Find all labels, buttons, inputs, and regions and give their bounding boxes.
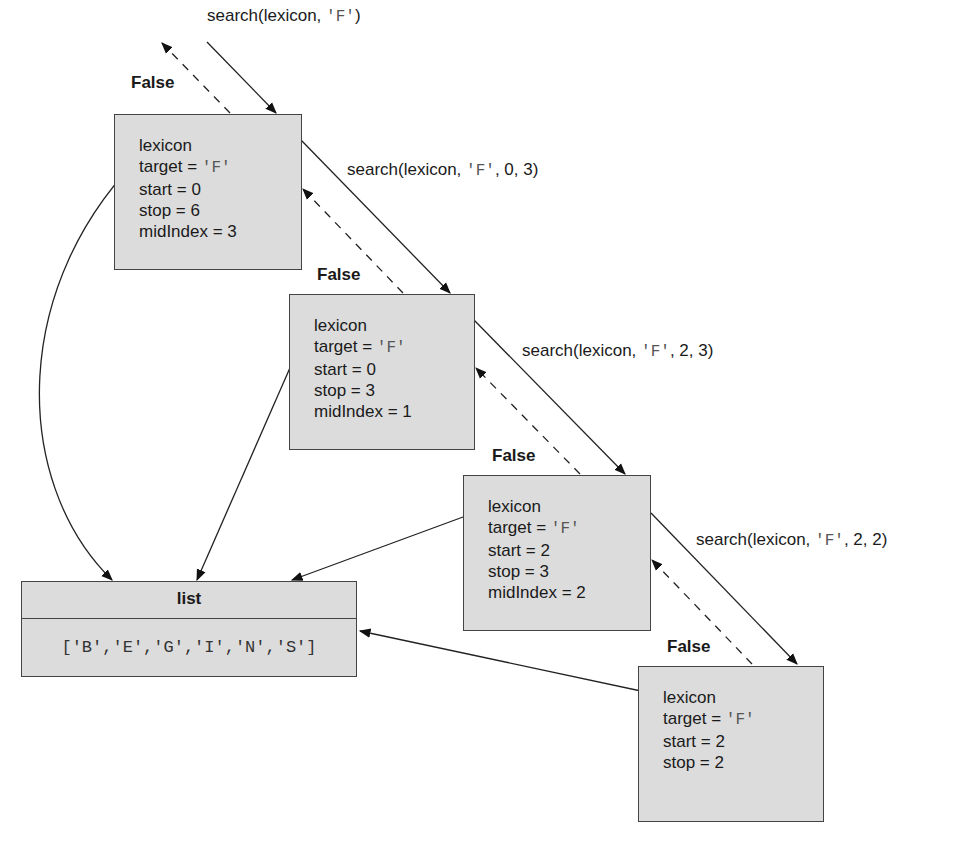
frame-target-key: target = [663,709,726,728]
call-arrow-1 [207,42,276,113]
call-label-4: search(lexicon, 'F', 2, 2) [696,530,887,550]
call-label-arg: 'F' [815,532,844,550]
return-label-2: False [317,265,360,285]
frame-start: start = 0 [139,179,301,200]
frame-stop: stop = 2 [663,752,823,773]
call-label-arg: 'F' [641,343,670,361]
call-label-suffix: , 2, 3) [670,341,713,360]
frame-target: target = 'F' [314,336,474,359]
frame-start: start = 2 [488,540,650,561]
frame-midindex: midIndex = 1 [314,401,474,422]
call-label-suffix: ) [355,6,361,25]
return-label-3: False [492,446,535,466]
return-label-1: False [131,73,174,93]
list-object-value: ['B','E','G','I','N','S'] [22,619,356,677]
frame-lexicon: lexicon [314,315,474,336]
frame-stop: stop = 3 [488,561,650,582]
frame-target: target = 'F' [663,708,823,731]
frame-target-value: 'F' [726,711,755,729]
call-label-arg: 'F' [466,162,495,180]
stack-frame-4: lexicon target = 'F' start = 2 stop = 2 [638,666,824,822]
frame-midindex: midIndex = 3 [139,221,301,242]
stack-frame-2: lexicon target = 'F' start = 0 stop = 3 … [289,294,475,450]
frame-lexicon: lexicon [139,135,301,156]
stack-frame-3: lexicon target = 'F' start = 2 stop = 3 … [463,475,651,631]
frame-target: target = 'F' [488,517,650,540]
frame-target-value: 'F' [202,159,231,177]
list-object-title: list [22,582,356,619]
frame-target: target = 'F' [139,156,301,179]
call-label-suffix: , 2, 2) [844,530,887,549]
call-label-3: search(lexicon, 'F', 2, 3) [522,341,713,361]
call-label-text: search(lexicon, [347,160,466,179]
ref-arrow-frame3 [292,510,482,580]
call-label-text: search(lexicon, [207,6,326,25]
call-label-arg: 'F' [326,8,355,26]
frame-target-value: 'F' [551,520,580,538]
frame-target-key: target = [139,157,202,176]
frame-target-key: target = [314,337,377,356]
frame-target-key: target = [488,518,551,537]
frame-lexicon: lexicon [488,496,650,517]
frame-stop: stop = 3 [314,380,474,401]
frame-start: start = 2 [663,731,823,752]
frame-target-value: 'F' [377,339,406,357]
call-label-suffix: , 0, 3) [495,160,538,179]
list-object: list ['B','E','G','I','N','S'] [21,581,357,677]
stack-frame-1: lexicon target = 'F' start = 0 stop = 6 … [114,114,302,270]
frame-start: start = 0 [314,359,474,380]
return-label-4: False [667,637,710,657]
frame-midindex: midIndex = 2 [488,582,650,603]
call-label-2: search(lexicon, 'F', 0, 3) [347,160,538,180]
ref-arrow-frame4 [360,631,655,694]
call-label-1: search(lexicon, 'F') [207,6,361,26]
call-label-text: search(lexicon, [522,341,641,360]
call-label-text: search(lexicon, [696,530,815,549]
frame-lexicon: lexicon [663,687,823,708]
frame-stop: stop = 6 [139,200,301,221]
